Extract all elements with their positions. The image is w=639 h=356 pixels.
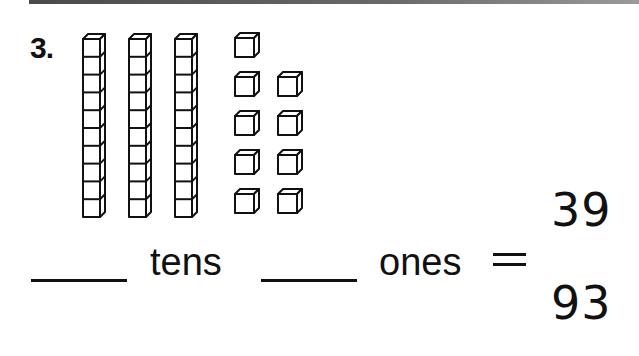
tens-rod	[83, 34, 105, 217]
tens-answer-blank[interactable]	[31, 279, 127, 282]
ones-cube	[278, 150, 302, 174]
ones-answer-blank[interactable]	[261, 279, 357, 282]
ones-cubes	[235, 33, 302, 213]
tens-rod	[129, 34, 151, 217]
ones-cube	[235, 72, 259, 96]
tens-rods	[83, 34, 197, 217]
answer-choice-93[interactable]: 93	[551, 280, 612, 326]
ones-cube	[235, 189, 259, 213]
equals-sign	[493, 253, 526, 266]
ones-cube	[235, 111, 259, 135]
base-ten-blocks	[0, 0, 639, 356]
ones-cube	[278, 189, 302, 213]
ones-cube	[235, 150, 259, 174]
tens-label: tens	[150, 243, 222, 281]
ones-cube	[278, 111, 302, 135]
ones-cube	[278, 72, 302, 96]
tens-rod	[175, 34, 197, 217]
equals-bar-top	[493, 253, 526, 256]
answer-choice-39[interactable]: 39	[551, 187, 612, 233]
equals-bar-bottom	[493, 263, 526, 266]
ones-cube	[235, 33, 259, 57]
ones-label: ones	[379, 243, 461, 281]
